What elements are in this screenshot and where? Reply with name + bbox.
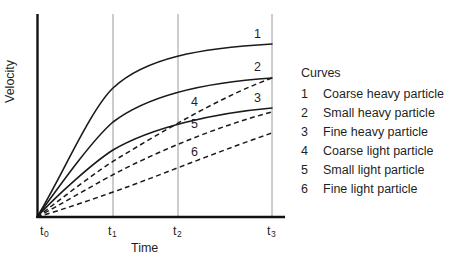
legend-row: 3 Fine heavy particle <box>301 123 451 142</box>
x-tick-label-t1: t1 <box>108 224 116 238</box>
legend-title: Curves <box>301 66 451 80</box>
legend-item-label: Coarse light particle <box>323 142 433 161</box>
legend-item-label: Fine heavy particle <box>323 123 428 142</box>
curve-label-1: 1 <box>254 28 261 41</box>
legend-item-number: 1 <box>301 85 323 104</box>
legend-row: 4 Coarse light particle <box>301 142 451 161</box>
x-tick-label-t2: t2 <box>173 224 181 238</box>
legend-item-number: 2 <box>301 104 323 123</box>
curve-label-3: 3 <box>254 92 261 105</box>
curve-6-fine-light-particle <box>37 133 272 217</box>
legend-item-number: 4 <box>301 142 323 161</box>
curve-3-fine-heavy-particle <box>37 108 272 217</box>
curve-2-small-heavy-particle <box>37 78 272 217</box>
legend-item-label: Small heavy particle <box>323 104 435 123</box>
legend-row: 6 Fine light particle <box>301 180 451 199</box>
x-tick-label-t3: t3 <box>267 224 275 238</box>
curve-label-6: 6 <box>191 146 198 159</box>
velocity-time-figure: Velocity Time t0 t1 t2 t3 1 2 3 4 5 6 Cu… <box>0 0 453 272</box>
legend-row: 5 Small light particle <box>301 161 451 180</box>
legend-item-label: Fine light particle <box>323 180 418 199</box>
x-tick-label-t0: t0 <box>40 224 48 238</box>
legend-row: 2 Small heavy particle <box>301 104 451 123</box>
axes <box>37 14 286 218</box>
legend: Curves 1 Coarse heavy particle 2 Small h… <box>301 66 451 199</box>
legend-item-number: 5 <box>301 161 323 180</box>
curve-4-coarse-light-particle <box>37 78 272 217</box>
curves <box>37 44 272 217</box>
x-axis-title: Time <box>131 241 158 255</box>
legend-row: 1 Coarse heavy particle <box>301 85 451 104</box>
legend-item-label: Coarse heavy particle <box>323 85 444 104</box>
curve-5-small-light-particle <box>37 112 272 217</box>
curve-label-2: 2 <box>254 61 261 74</box>
legend-item-number: 3 <box>301 123 323 142</box>
curve-label-5: 5 <box>191 118 198 131</box>
legend-item-label: Small light particle <box>323 161 424 180</box>
y-axis-title: Velocity <box>3 60 17 103</box>
legend-item-number: 6 <box>301 180 323 199</box>
curve-label-4: 4 <box>191 96 198 109</box>
